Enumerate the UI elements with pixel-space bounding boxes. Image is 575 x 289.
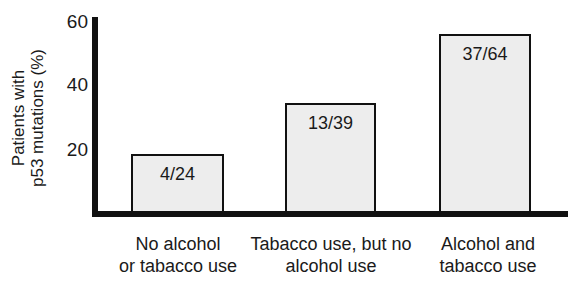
y-tick-40: 40 <box>54 75 88 95</box>
bar-value-label: 37/64 <box>441 44 529 64</box>
y-axis-label: Patients with p53 mutations (%) <box>9 18 47 218</box>
bar-value-label: 13/39 <box>287 113 374 133</box>
y-axis-label-line-2: p53 mutations (%) <box>28 18 47 218</box>
x-axis-line <box>92 211 568 217</box>
bar-tabacco-no-alcohol: 13/39 <box>285 103 376 212</box>
bar-value-label: 4/24 <box>133 164 222 184</box>
x-category-label: No alcohol or tabacco use <box>98 233 258 277</box>
x-category-label: Tabacco use, but no alcohol use <box>236 233 426 277</box>
y-tick-60: 60 <box>54 12 88 32</box>
bar-alcohol-and-tabacco: 37/64 <box>439 34 531 212</box>
y-axis-label-line-1: Patients with <box>9 18 28 218</box>
y-tick-20: 20 <box>54 140 88 160</box>
x-category-label: Alcohol and tabacco use <box>418 233 558 277</box>
bar-no-alcohol-or-tabacco: 4/24 <box>131 154 224 212</box>
y-axis-line <box>92 17 98 217</box>
bar-chart: Patients with p53 mutations (%) 60 40 20… <box>0 0 575 289</box>
